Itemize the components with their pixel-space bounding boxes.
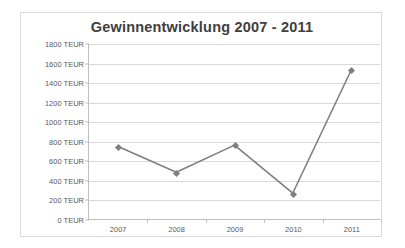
y-axis-tick-label: 400 TEUR xyxy=(49,176,84,185)
plot-area: 1800 TEUR1600 TEUR1400 TEUR1200 TEUR1000… xyxy=(88,44,380,220)
y-axis-tick-label: 1400 TEUR xyxy=(45,79,84,88)
x-axis-tick-mark xyxy=(206,219,207,223)
chart-title: Gewinnentwicklung 2007 - 2011 xyxy=(21,19,383,35)
x-axis-tick-label: 2008 xyxy=(168,225,185,234)
y-axis-tick-label: 1200 TEUR xyxy=(45,98,84,107)
y-axis-tick-label: 1800 TEUR xyxy=(45,40,84,49)
y-axis-tick-label: 600 TEUR xyxy=(49,157,84,166)
x-axis-tick-mark xyxy=(381,219,382,223)
y-axis-tick-label: 0 TEUR xyxy=(57,216,84,225)
series-polyline xyxy=(118,71,351,194)
y-axis-tick-mark xyxy=(85,220,89,221)
y-axis-tick-label: 1000 TEUR xyxy=(45,118,84,127)
chart-frame: Gewinnentwicklung 2007 - 2011 1800 TEUR1… xyxy=(20,12,382,237)
x-axis-tick-mark xyxy=(147,219,148,223)
x-axis-tick-mark xyxy=(323,219,324,223)
y-axis-tick-label: 800 TEUR xyxy=(49,137,84,146)
x-axis-tick-label: 2009 xyxy=(227,225,244,234)
y-axis-tick-label: 1600 TEUR xyxy=(45,59,84,68)
x-axis-tick-label: 2011 xyxy=(344,225,360,234)
line-series xyxy=(89,44,380,219)
x-axis-tick-label: 2007 xyxy=(110,225,127,234)
y-axis-tick-label: 200 TEUR xyxy=(49,196,84,205)
x-axis-tick-label: 2010 xyxy=(285,225,302,234)
x-axis-tick-mark xyxy=(264,219,265,223)
